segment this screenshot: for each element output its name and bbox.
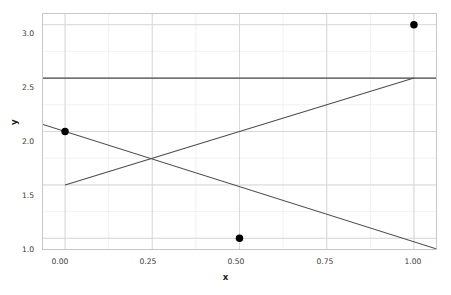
scatter-marker <box>61 128 68 135</box>
x-axis-label: x <box>0 272 451 282</box>
scatter-marker <box>410 21 417 28</box>
y-tick-label-5: 3.0 <box>0 30 34 38</box>
y-axis-label: y <box>9 119 19 125</box>
chart-figure: y 1.0 1.5 2.0 2.5 3.0 0.00 0.25 0.50 0.7… <box>0 0 451 295</box>
x-tick-label-2: 0.25 <box>128 258 168 266</box>
y-tick-label-4: 2.5 <box>0 84 34 92</box>
x-tick-label-4: 0.75 <box>305 258 345 266</box>
x-tick-label-3: 0.50 <box>216 258 256 266</box>
x-tick-label-1: 0.00 <box>40 258 80 266</box>
scatter-marker <box>236 235 243 242</box>
y-tick-label-1: 1.0 <box>0 246 34 254</box>
y-tick-label-2: 1.5 <box>0 192 34 200</box>
y-tick-label-3: 2.0 <box>0 138 34 146</box>
chart-canvas <box>43 14 436 249</box>
x-tick-label-5: 1.00 <box>393 258 433 266</box>
plot-area <box>42 13 437 250</box>
